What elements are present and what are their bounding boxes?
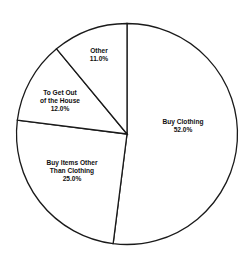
label-text: Than Clothing	[47, 167, 98, 175]
slice-label-get-out-of-house: To Get Out of the House 12.0%	[40, 89, 80, 113]
label-text: Buy Clothing	[162, 118, 203, 126]
value-text: 52.0%	[162, 126, 203, 134]
value-text: 12.0%	[40, 105, 80, 113]
slice-label-buy-items-other: Buy Items Other Than Clothing 25.0%	[47, 159, 98, 183]
label-text: To Get Out	[40, 89, 80, 97]
slice-label-buy-clothing: Buy Clothing 52.0%	[162, 118, 203, 134]
pie-chart	[0, 0, 246, 263]
label-text: Other	[90, 47, 108, 55]
pie-slice-buy-clothing	[113, 24, 237, 245]
slice-label-other: Other 11.0%	[90, 47, 108, 63]
label-text: of the House	[40, 97, 80, 105]
pie-slices	[16, 24, 237, 245]
value-text: 25.0%	[47, 175, 98, 183]
value-text: 11.0%	[90, 55, 108, 63]
label-text: Buy Items Other	[47, 159, 98, 167]
